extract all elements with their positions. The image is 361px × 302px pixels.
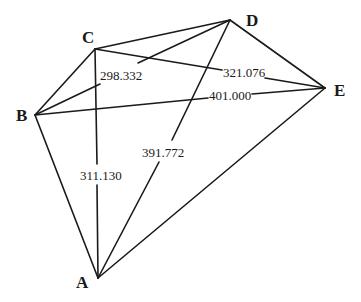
- network-diagram: 298.332 321.076 401.000 311.130 391.772 …: [0, 0, 361, 302]
- edge-label-C-E: 321.076: [223, 65, 266, 80]
- edge-B-E: [35, 88, 325, 115]
- edge-E-A: [98, 88, 325, 278]
- vertex-label-D: D: [246, 11, 258, 30]
- edge-label-B-D: 298.332: [100, 68, 142, 83]
- edge-label-C-A: 311.130: [80, 168, 122, 183]
- edge-C-D: [95, 20, 230, 49]
- edge-B-A: [35, 115, 98, 278]
- edge-label-B-E: 401.000: [209, 88, 251, 103]
- vertex-label-C: C: [82, 28, 94, 47]
- edge-B-C: [35, 49, 95, 115]
- vertex-label-E: E: [334, 81, 345, 100]
- vertex-label-B: B: [16, 106, 27, 125]
- vertex-label-A: A: [76, 273, 89, 292]
- edge-C-A: [95, 49, 98, 278]
- edge-label-A-D: 391.772: [142, 145, 184, 160]
- diagram-svg: 298.332 321.076 401.000 311.130 391.772 …: [0, 0, 361, 302]
